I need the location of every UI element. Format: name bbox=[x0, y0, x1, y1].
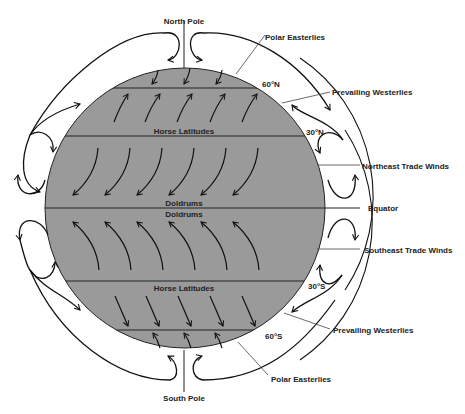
cell-arrow-icon bbox=[328, 175, 355, 198]
doldrums-north-label: Doldrums bbox=[165, 199, 203, 208]
cell-arrow-icon bbox=[193, 356, 203, 380]
latitude-30s-label: 30°S bbox=[308, 282, 326, 291]
doldrums-south-label: Doldrums bbox=[165, 210, 203, 219]
leader-polar-easterlies-south bbox=[238, 342, 268, 375]
horse-latitudes-south-label: Horse Latitudes bbox=[154, 284, 215, 293]
globe bbox=[40, 68, 360, 348]
south-pole-label: South Pole bbox=[163, 394, 205, 403]
cell-arrow-icon bbox=[20, 240, 30, 270]
equator-label: Equator bbox=[368, 204, 398, 213]
latitude-60n-label: 60°N bbox=[262, 80, 280, 89]
latitude-30n-label: 30°N bbox=[306, 128, 324, 137]
prevailing-westerlies-north-label: Prevailing Westerlies bbox=[332, 88, 413, 97]
cell-arrow-icon bbox=[30, 262, 55, 278]
wind-circulation-diagram: North Pole South Pole 60°N 30°N 30°S 60°… bbox=[0, 0, 465, 414]
leader-prevailing-westerlies-north bbox=[282, 92, 330, 103]
horse-latitudes-north-label: Horse Latitudes bbox=[154, 127, 215, 136]
cell-arrow-icon bbox=[18, 175, 45, 194]
cell-arrow-icon bbox=[165, 33, 179, 60]
polar-easterlies-north-label: Polar Easterlies bbox=[265, 33, 326, 42]
southeast-trade-winds-label: Southeast Trade Winds bbox=[364, 246, 453, 255]
polar-easterlies-south-label: Polar Easterlies bbox=[271, 375, 332, 384]
north-pole-label: North Pole bbox=[164, 17, 205, 26]
cell-arrow-icon bbox=[30, 132, 53, 152]
cell-arrow-icon bbox=[320, 265, 342, 284]
cell-arrow-icon bbox=[328, 219, 355, 240]
cell-arrow-icon bbox=[190, 33, 203, 60]
northeast-trade-winds-label: Northeast Trade Winds bbox=[362, 162, 450, 171]
latitude-60s-label: 60°S bbox=[265, 332, 283, 341]
prevailing-westerlies-south-label: Prevailing Westerlies bbox=[333, 326, 414, 335]
cell-arrow-icon bbox=[19, 221, 48, 240]
